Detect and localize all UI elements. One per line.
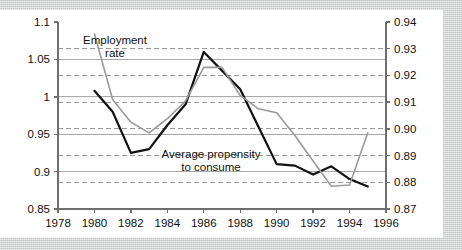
tick-label-left-0: 0.85 [28,203,50,215]
tick-label-left-2: 0.95 [28,128,50,140]
tick-label-left-5: 1.1 [34,16,50,28]
tick-label-right-4: 0.91 [394,96,416,108]
chart-screenshot: 0.850.90.9511.051.10.870.880.890.900.910… [0,0,462,250]
tick-label-x-5: 1988 [227,217,253,229]
tick-label-x-2: 1982 [118,217,144,229]
tick-label-right-7: 0.94 [394,16,417,28]
line-chart: 0.850.90.9511.051.10.870.880.890.900.910… [0,10,443,238]
tick-label-right-1: 0.88 [394,176,416,188]
average-propensity-label: Average propensityto consume [162,148,261,173]
tick-label-right-5: 0.92 [394,69,416,81]
tick-label-right-6: 0.93 [394,43,416,55]
tick-label-x-0: 1978 [45,217,71,229]
tick-label-left-4: 1.05 [28,53,50,65]
tick-label-x-7: 1992 [300,217,326,229]
tick-label-left-3: 1 [44,91,50,103]
tick-label-right-2: 0.89 [394,150,416,162]
tick-label-left-1: 0.9 [34,166,50,178]
tick-label-x-6: 1990 [264,217,290,229]
tick-label-right-0: 0.87 [394,203,416,215]
tick-label-x-1: 1980 [82,217,108,229]
tick-label-x-9: 1996 [373,217,399,229]
tick-label-right-3: 0.90 [394,123,416,135]
tick-label-x-8: 1994 [337,217,363,229]
chart-card: 0.850.90.9511.051.10.870.880.890.900.910… [0,10,443,238]
employment-rate-label: Employmentrate [83,34,148,59]
tick-label-x-4: 1986 [191,217,217,229]
tick-label-x-3: 1984 [155,217,181,229]
